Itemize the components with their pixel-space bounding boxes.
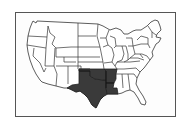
us-map: [0, 0, 190, 129]
